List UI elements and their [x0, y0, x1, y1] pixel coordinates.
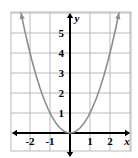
y-tick-label-0: 1: [59, 107, 65, 119]
y-tick-label-4: 5: [59, 27, 65, 39]
x-axis-label: x: [123, 135, 130, 147]
coordinate-plane-graph: -2-112 12345 x y: [0, 0, 138, 158]
y-axis-label: y: [73, 12, 80, 24]
x-tick-label-3: 2: [107, 135, 113, 147]
y-tick-label-1: 2: [59, 87, 65, 99]
x-tick-label-2: 1: [87, 135, 93, 147]
y-tick-label-2: 3: [59, 67, 65, 79]
graph-figure: -2-112 12345 x y: [0, 0, 138, 158]
x-tick-label-0: -2: [25, 135, 35, 147]
y-tick-label-3: 4: [59, 47, 65, 59]
x-tick-label-1: -1: [45, 135, 54, 147]
